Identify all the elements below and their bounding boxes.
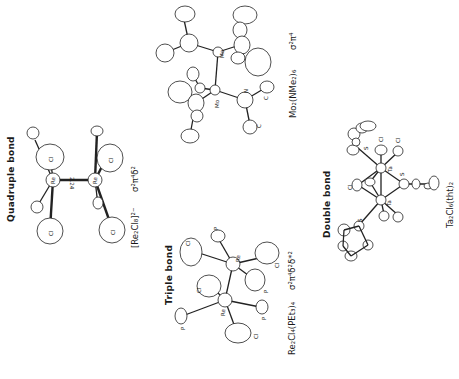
c-atom	[156, 44, 174, 62]
atom-label: Cl	[378, 136, 384, 142]
atom-label: Cl	[196, 287, 202, 293]
atom-label: Cl	[274, 262, 280, 268]
cl-atom	[365, 178, 375, 186]
panel-title-double: Double bond	[322, 170, 332, 238]
atom-label: Re	[235, 254, 241, 262]
atom-label: Ta	[386, 200, 392, 207]
atom-label: P	[213, 226, 219, 230]
cl-atom	[93, 197, 103, 209]
atom-label: C	[263, 96, 269, 100]
cl-atom	[352, 179, 362, 191]
c-atom	[187, 67, 199, 81]
n-atom	[180, 34, 198, 52]
configuration-quadruple: σ²π⁴δ²	[130, 166, 140, 192]
panel-title-quadruple: Quadruple bond	[6, 136, 16, 222]
atom-label: S	[357, 218, 363, 222]
formula-mo2: Mo₂(NMe₂)₆	[288, 69, 298, 118]
panel-title-triple: Triple bond	[164, 245, 174, 305]
re-atom	[218, 293, 232, 307]
cl-atom	[225, 323, 251, 343]
atom-label: P	[263, 289, 269, 293]
cl-atom	[91, 126, 103, 136]
atom-label: N	[243, 89, 249, 93]
atom-label: Re	[50, 176, 56, 184]
c-atom	[233, 6, 257, 24]
atom-label: C	[256, 124, 262, 128]
n-atom	[234, 36, 250, 54]
p-atom	[256, 300, 268, 314]
atom-label: Cl	[185, 240, 191, 246]
n-atom	[188, 94, 204, 112]
bond	[351, 245, 368, 256]
c-atom	[245, 48, 271, 76]
cl-atom	[31, 201, 43, 213]
mo-atom	[210, 85, 220, 95]
atom-label: Re	[220, 308, 226, 316]
atom-label: Cl	[108, 157, 114, 163]
mo-mo-bond	[215, 52, 218, 90]
c-atom	[260, 81, 274, 93]
ta-atom	[376, 163, 386, 173]
bond-length-label: 2.24	[69, 177, 75, 190]
c-atom	[352, 138, 360, 146]
c-atom	[181, 129, 199, 143]
atom-label: S	[399, 172, 405, 176]
atom-label: Cl	[395, 137, 401, 143]
p-atom	[211, 230, 225, 242]
configuration-mo2: σ²π⁴	[288, 32, 298, 50]
s-atom	[347, 145, 359, 155]
atom-label: Ta	[387, 166, 393, 173]
cl-atom	[255, 242, 279, 264]
formula-quadruple: [Re₂Cl₈]²⁻	[130, 208, 140, 248]
p-atom	[175, 308, 187, 324]
cl-atom	[393, 212, 403, 222]
atom-label: Cl	[253, 333, 259, 339]
panel-mo2-nme2-6: Mo Mo N C C Mo₂(NMe₂)₆ σ²π⁴	[156, 6, 298, 143]
cl-atom	[375, 145, 387, 155]
formula-triple: Re₂Cl₄(PEt₃)₄	[287, 301, 297, 355]
atom-label: Re	[92, 176, 98, 184]
atom-label: Mo	[219, 49, 225, 58]
p-atom	[245, 269, 265, 291]
cl-atom	[393, 146, 403, 156]
ta-atom	[376, 195, 386, 205]
atom-label: Cl	[110, 229, 116, 235]
atom-label: Cl	[48, 156, 54, 162]
atom-label: P	[180, 326, 186, 330]
cl-atom	[27, 127, 39, 139]
molecular-structures-figure: Quadruple bond Cl Cl Cl Cl Re Re 2.24 [R…	[0, 0, 459, 379]
c-atom	[360, 121, 376, 131]
c-atom	[429, 176, 439, 190]
panel-triple-bond: Triple bond P Cl Re Cl P Cl Re P P Cl Re…	[164, 226, 297, 355]
atom-label: Cl	[347, 184, 353, 190]
c-atom	[412, 179, 420, 189]
c-atom	[243, 120, 257, 134]
cl-atom	[180, 238, 202, 266]
c-atom	[231, 52, 245, 64]
atom-label: S	[363, 146, 369, 150]
c-atom	[233, 22, 247, 38]
panel-quadruple-bond: Quadruple bond Cl Cl Cl Cl Re Re 2.24 [R…	[6, 126, 140, 248]
s-atom	[399, 179, 409, 189]
c-atom	[191, 110, 203, 122]
atom-label: Mo	[214, 99, 220, 108]
formula-double: Ta₂Cl₆(tht)₂	[445, 182, 455, 229]
configuration-triple: σ²π⁴δ²δ*²	[287, 251, 297, 290]
n-atom	[195, 83, 205, 93]
c-atom	[175, 6, 195, 22]
cl-atom	[379, 211, 389, 221]
panel-double-bond: Double bond	[322, 121, 455, 261]
atom-label: P	[261, 316, 267, 320]
n-atom	[237, 92, 253, 108]
atom-label: Cl	[48, 230, 54, 236]
